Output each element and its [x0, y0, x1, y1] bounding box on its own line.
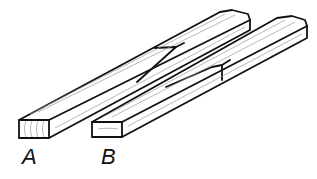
board-b-label: B — [101, 146, 116, 168]
board-b — [92, 16, 307, 137]
boards-illustration — [0, 0, 317, 179]
board-a-end-face — [19, 120, 49, 138]
board-a-label: A — [22, 146, 37, 168]
wood-grain — [25, 14, 303, 137]
board-b-end-face — [92, 122, 122, 137]
